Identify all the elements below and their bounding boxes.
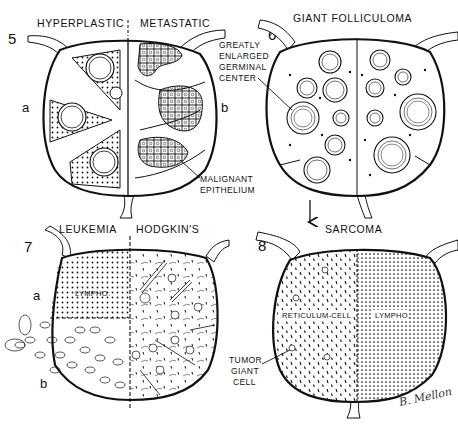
callout-tumor: TUMOR — [229, 355, 262, 365]
inner-label-lympho: LYMPHO. — [375, 311, 410, 320]
panel-label-hyperplastic: HYPERPLASTIC — [37, 17, 124, 29]
panel-label-hodgkins: HODGKIN'S — [136, 223, 199, 235]
side-label-a: a — [33, 288, 41, 303]
panel-label-metastatic: METASTATIC — [140, 17, 210, 29]
callout-line-1: GREATLY — [219, 40, 260, 50]
panel-label-leukemia: LEUKEMIA — [59, 223, 117, 235]
callout-cell: CELL — [233, 377, 256, 387]
panel-7-leukemia-hodgkins: LEUKEMIA HODGKIN'S 7 LYMPHO. — [5, 223, 229, 410]
callout-malignant: MALIGNANT — [200, 174, 253, 184]
lymph-node-pathology-figure: 5 HYPERPLASTIC METASTATIC a b MALIGNANT — [0, 0, 458, 435]
inner-label-lympho: LYMPHO. — [75, 289, 110, 298]
callout-line-2: ENLARGED — [219, 51, 269, 61]
callout-epithelium: EPITHELIUM — [200, 185, 255, 195]
panel-title: GIANT FOLLICULOMA — [293, 12, 412, 24]
side-label-a: a — [22, 100, 30, 115]
panel-number: 5 — [8, 30, 16, 47]
callout-giant: GIANT — [231, 366, 259, 376]
panel-number: 7 — [24, 238, 32, 255]
side-label-b: b — [221, 100, 228, 115]
inner-label-reticulum-cell: RETICULUM-CELL — [282, 311, 351, 320]
side-label-b: b — [40, 376, 47, 391]
panel-title: SARCOMA — [325, 223, 382, 235]
callout-line-4: CENTER — [219, 73, 256, 83]
panel-5-hyperplastic-metastatic: 5 HYPERPLASTIC METASTATIC a b MALIGNANT — [8, 17, 255, 218]
callout-line-3: GERMINAL — [219, 62, 267, 72]
panel-8-sarcoma: SARCOMA 8 RETICULUM-CELL LYMPHO. TUMOR G… — [229, 223, 458, 418]
